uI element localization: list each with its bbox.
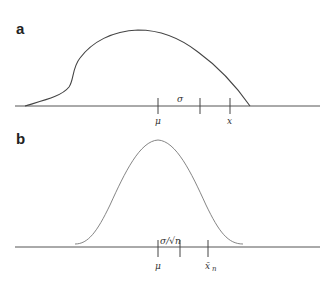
panel-a: a σ μ x <box>15 20 320 126</box>
panel-b-label: b <box>16 130 25 147</box>
panel-b: b σ/√n μ x̄n <box>15 130 320 273</box>
mu-label-b: μ <box>155 261 161 271</box>
panel-a-skewed-curve <box>25 30 250 106</box>
mu-label: μ <box>155 116 161 126</box>
xbar-label: x̄n <box>205 261 217 273</box>
panel-a-label: a <box>16 20 25 37</box>
figure: a σ μ x b σ/√n μ x̄n <box>0 0 334 288</box>
panel-b-normal-curve <box>75 140 243 244</box>
sigma-label: σ <box>177 94 184 104</box>
se-label: σ/√n <box>160 236 181 246</box>
x-label: x <box>227 116 232 126</box>
